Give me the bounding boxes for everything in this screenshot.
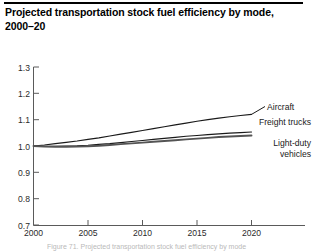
series-label-aircraft: Aircraft xyxy=(267,102,295,112)
aircraft-leader-line xyxy=(252,107,266,115)
series-label-light-duty-vehicles-line1: Light-duty xyxy=(273,138,311,148)
x-tick-label-2020: 2020 xyxy=(242,228,261,238)
y-tick-label-0-9: 0.9 xyxy=(18,168,30,178)
y-tick-label-0-8: 0.8 xyxy=(18,194,30,204)
y-tick-labels: 1.3 1.2 1.1 1.0 0.9 0.8 0.7 xyxy=(18,63,30,231)
figure-caption-clipped: Figure 71. Projected transportation stoc… xyxy=(47,243,297,251)
x-tick-label-2005: 2005 xyxy=(78,228,97,238)
series-annotations: Aircraft Freight trucks Light-duty vehic… xyxy=(259,102,312,159)
x-tick-label-2010: 2010 xyxy=(133,228,152,238)
x-tick-marks xyxy=(34,220,252,226)
series-line-light-duty-vehicles xyxy=(34,135,252,146)
series-label-freight-trucks: Freight trucks xyxy=(259,117,311,127)
series-line-freight-trucks xyxy=(34,132,252,146)
chart-figure: Projected transportation stock fuel effi… xyxy=(0,0,315,251)
line-chart-svg: 1.3 1.2 1.1 1.0 0.9 0.8 0.7 2000 2005 2 xyxy=(0,0,315,251)
y-tick-label-1-0: 1.0 xyxy=(18,142,30,152)
series-line-aircraft xyxy=(34,114,252,146)
y-tick-label-1-1: 1.1 xyxy=(18,115,30,125)
series-lines xyxy=(34,114,252,146)
plot-area: 1.3 1.2 1.1 1.0 0.9 0.8 0.7 2000 2005 2 xyxy=(0,0,315,251)
y-tick-label-1-3: 1.3 xyxy=(18,63,30,73)
series-label-light-duty-vehicles-line2: vehicles xyxy=(280,149,311,159)
x-tick-label-2015: 2015 xyxy=(187,228,206,238)
x-tick-labels: 2000 2005 2010 2015 2020 xyxy=(24,228,261,238)
x-tick-label-2000: 2000 xyxy=(24,228,43,238)
y-tick-label-1-2: 1.2 xyxy=(18,89,30,99)
